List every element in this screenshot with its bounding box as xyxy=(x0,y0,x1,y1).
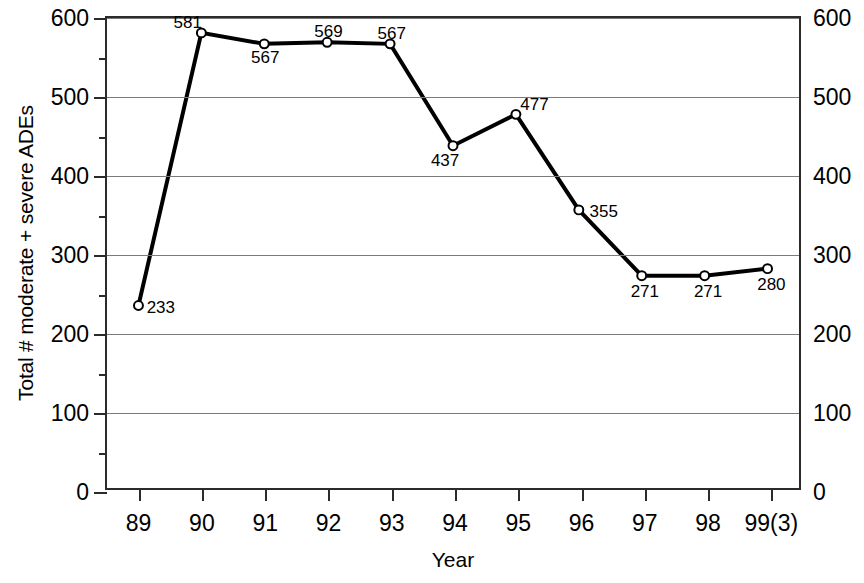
data-label-95: 477 xyxy=(520,95,548,115)
y-tick-label-right-300: 300 xyxy=(813,242,851,269)
y-tick-minor-250 xyxy=(99,295,107,297)
x-tick-96 xyxy=(582,488,584,501)
gridline-y-500 xyxy=(107,97,799,98)
y-tick-major-300 xyxy=(94,255,107,257)
y-tick-major-200 xyxy=(94,334,107,336)
y-tick-major-400 xyxy=(94,176,107,178)
gridline-y-200 xyxy=(107,334,799,335)
x-tick-90 xyxy=(202,488,204,501)
x-tick-label-99(3): 99(3) xyxy=(745,510,799,537)
gridline-y-300 xyxy=(107,255,799,256)
y-tick-label-left-300: 300 xyxy=(51,242,89,269)
data-label-94: 437 xyxy=(431,151,459,171)
data-point-97 xyxy=(637,271,646,280)
x-tick-label-94: 94 xyxy=(442,510,468,537)
y-tick-label-left-100: 100 xyxy=(51,400,89,427)
y-tick-label-left-0: 0 xyxy=(76,479,89,506)
data-label-90: 581 xyxy=(174,13,202,33)
x-tick-label-96: 96 xyxy=(569,510,595,537)
x-tick-97 xyxy=(645,488,647,501)
y-tick-major-100 xyxy=(94,413,107,415)
data-point-91 xyxy=(260,39,269,48)
y-tick-minor-550 xyxy=(99,58,107,60)
y-tick-label-left-400: 400 xyxy=(51,163,89,190)
y-tick-minor-50 xyxy=(99,453,107,455)
y-tick-minor-450 xyxy=(99,137,107,139)
y-tick-label-right-200: 200 xyxy=(813,321,851,348)
y-tick-major-500 xyxy=(94,97,107,99)
y-tick-minor-350 xyxy=(99,216,107,218)
data-label-92: 569 xyxy=(314,22,342,42)
y-tick-label-left-500: 500 xyxy=(51,84,89,111)
y-tick-label-right-500: 500 xyxy=(813,84,851,111)
y-tick-label-left-200: 200 xyxy=(51,321,89,348)
gridline-y-100 xyxy=(107,413,799,414)
x-tick-label-89: 89 xyxy=(126,510,152,537)
data-label-98: 271 xyxy=(694,282,722,302)
x-tick-label-98: 98 xyxy=(695,510,721,537)
y-axis-title: Total # moderate + severe ADEs xyxy=(6,16,46,490)
x-tick-91 xyxy=(265,488,267,501)
x-tick-89 xyxy=(139,488,141,501)
y-tick-label-right-100: 100 xyxy=(813,400,851,427)
data-label-96: 355 xyxy=(590,202,618,222)
x-tick-label-93: 93 xyxy=(379,510,405,537)
data-label-91: 567 xyxy=(251,48,279,68)
x-tick-95 xyxy=(518,488,520,501)
y-tick-label-right-400: 400 xyxy=(813,163,851,190)
data-label-97: 271 xyxy=(631,282,659,302)
series-line-chart xyxy=(107,18,799,488)
data-label-99(3): 280 xyxy=(757,275,785,295)
data-point-95 xyxy=(511,110,520,119)
chart-figure: Total # moderate + severe ADEs 001001002… xyxy=(0,0,864,583)
x-tick-label-97: 97 xyxy=(632,510,658,537)
x-tick-94 xyxy=(455,488,457,501)
data-point-98 xyxy=(700,271,709,280)
x-tick-99(3) xyxy=(771,488,773,501)
x-axis-title: Year xyxy=(105,548,801,572)
x-tick-label-95: 95 xyxy=(505,510,531,537)
gridline-y-400 xyxy=(107,176,799,177)
y-tick-minor-150 xyxy=(99,374,107,376)
data-point-89 xyxy=(134,301,143,310)
x-tick-label-90: 90 xyxy=(189,510,215,537)
x-tick-93 xyxy=(392,488,394,501)
plot-area: 0010010020020030030040040050050060060089… xyxy=(105,16,801,490)
y-tick-major-600 xyxy=(94,18,107,20)
y-tick-label-right-600: 600 xyxy=(813,5,851,32)
data-point-99(3) xyxy=(763,264,772,273)
data-point-94 xyxy=(449,141,458,150)
y-tick-label-right-0: 0 xyxy=(813,479,826,506)
x-tick-label-91: 91 xyxy=(252,510,278,537)
y-tick-label-left-600: 600 xyxy=(51,5,89,32)
gridline-y-600 xyxy=(107,18,799,19)
data-label-93: 567 xyxy=(378,24,406,44)
y-tick-major-0 xyxy=(94,492,107,494)
data-point-96 xyxy=(574,205,583,214)
x-tick-92 xyxy=(328,488,330,501)
data-label-89: 233 xyxy=(147,298,175,318)
x-tick-label-92: 92 xyxy=(316,510,342,537)
x-tick-98 xyxy=(708,488,710,501)
